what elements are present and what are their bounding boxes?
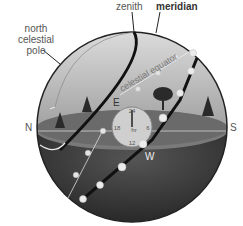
meridian-label: meridian — [156, 1, 198, 12]
clock-unit: hr — [131, 127, 136, 133]
north-label: N — [25, 122, 32, 133]
west-label: W — [145, 151, 155, 162]
south-label: S — [230, 122, 237, 133]
meridian-leader — [156, 12, 160, 33]
north-celestial-pole-label: north celestial pole — [16, 23, 56, 56]
clock-label-18: 18 — [114, 125, 121, 131]
clock-label-12: 12 — [129, 140, 136, 146]
zenith-leader — [132, 12, 134, 32]
pole-label-line-3: pole — [16, 45, 56, 56]
zenith-label: zenith — [116, 1, 143, 12]
pole-label-line-2: celestial — [16, 34, 56, 45]
east-label: E — [113, 97, 120, 108]
pole-label-line-1: north — [16, 23, 56, 34]
clock-label-24: 24 — [129, 108, 136, 114]
